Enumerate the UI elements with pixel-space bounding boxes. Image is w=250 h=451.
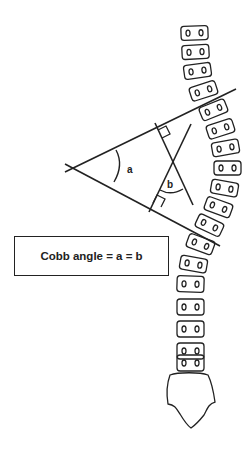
vertebra bbox=[188, 80, 218, 102]
vertebra bbox=[203, 196, 233, 218]
angle-b-label: b bbox=[167, 179, 173, 190]
vertebra bbox=[177, 321, 204, 337]
vertebra bbox=[205, 118, 235, 140]
vertebra bbox=[194, 213, 224, 237]
vertebra bbox=[210, 179, 239, 197]
vertebra bbox=[181, 26, 208, 41]
sacrum bbox=[167, 373, 215, 428]
vertebra bbox=[177, 276, 205, 293]
vertebra bbox=[198, 98, 228, 121]
vertebra bbox=[183, 62, 212, 80]
upper-endplate-line bbox=[65, 89, 236, 172]
cobb-angle-caption-box: Cobb angle = a = b bbox=[14, 236, 169, 276]
vertebra bbox=[211, 139, 240, 157]
cobb-angle-diagram bbox=[0, 0, 250, 451]
spine bbox=[167, 26, 241, 428]
angle-a-arc bbox=[114, 150, 120, 182]
lower-endplate-line bbox=[65, 164, 220, 246]
angle-a-label: a bbox=[127, 164, 133, 175]
cobb-angle-caption: Cobb angle = a = b bbox=[40, 250, 142, 262]
vertebra bbox=[182, 44, 210, 59]
vertebra bbox=[214, 161, 241, 175]
vertebra bbox=[179, 255, 208, 273]
vertebra bbox=[177, 299, 204, 315]
vertebra bbox=[177, 355, 204, 371]
vertebra bbox=[177, 343, 204, 359]
measurement-lines bbox=[65, 89, 236, 246]
